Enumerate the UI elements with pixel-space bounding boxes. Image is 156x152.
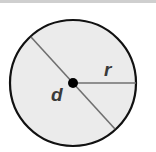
circle-diagram: d r xyxy=(0,0,156,152)
diameter-label: d xyxy=(51,84,63,105)
center-point xyxy=(68,78,78,88)
